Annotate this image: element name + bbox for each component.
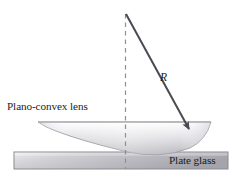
arrow-down-right-icon: [126, 14, 189, 129]
figure-canvas: [0, 0, 241, 172]
radius-label: R: [160, 72, 167, 84]
newtons-rings-figure: Plano-convex lens Plate glass R: [0, 0, 241, 172]
plano-convex-lens-label: Plano-convex lens: [7, 101, 88, 112]
plate-glass-label: Plate glass: [169, 155, 215, 166]
plano-convex-lens-shape: [38, 122, 211, 155]
